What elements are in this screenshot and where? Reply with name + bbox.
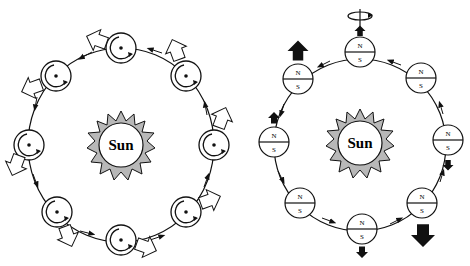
- svg-text:S: S: [419, 82, 423, 90]
- svg-text:N: N: [297, 193, 302, 201]
- right-diagram: Sun N S N S N S N S: [259, 9, 463, 258]
- planet-icon: [42, 197, 72, 227]
- svg-text:N: N: [295, 69, 300, 77]
- solid-arrow-down-icon: [356, 247, 368, 258]
- orbit-direction-arrow: [150, 49, 162, 53]
- rotation-axis-icon: [348, 9, 373, 28]
- hollow-arrow-icon: [133, 233, 160, 261]
- solid-arrow-up-icon: [288, 41, 309, 61]
- planet-icon: [41, 61, 71, 91]
- orbit-direction-arrow: [322, 218, 333, 222]
- planet-icon: [106, 225, 136, 255]
- planet-icon: [171, 197, 201, 227]
- magnet-body: N S: [283, 64, 313, 94]
- magnet-body: N S: [259, 127, 289, 157]
- magnet-body: N S: [345, 37, 375, 67]
- svg-text:S: S: [298, 207, 302, 215]
- magnet-body: N S: [347, 214, 377, 244]
- svg-text:S: S: [296, 83, 300, 91]
- planet-icon: [171, 61, 201, 91]
- svg-text:S: S: [420, 207, 424, 215]
- planet-icon: [199, 130, 229, 160]
- svg-text:N: N: [418, 68, 423, 76]
- solid-arrow-up-icon: [268, 112, 280, 123]
- left-diagram: Sun: [2, 26, 236, 261]
- svg-text:S: S: [360, 233, 364, 241]
- sun: Sun: [87, 111, 155, 180]
- svg-text:S: S: [446, 144, 450, 152]
- hollow-arrow-icon: [162, 36, 190, 63]
- sun: Sun: [326, 109, 394, 178]
- svg-text:S: S: [272, 146, 276, 154]
- planet-icon: [106, 33, 136, 63]
- magnet-body: N S: [407, 188, 437, 218]
- diagram-canvas: Sun Sun: [0, 0, 470, 266]
- svg-text:N: N: [357, 42, 362, 50]
- orbit-direction-arrow: [440, 104, 443, 114]
- orbit-direction-arrow: [278, 171, 283, 181]
- svg-text:N: N: [271, 132, 276, 140]
- sun-label: Sun: [347, 135, 373, 151]
- magnet-body: N S: [433, 125, 463, 155]
- svg-text:N: N: [445, 130, 450, 138]
- svg-text:N: N: [359, 219, 364, 227]
- sun-label: Sun: [108, 137, 134, 153]
- magnet-body: N S: [285, 188, 315, 218]
- svg-text:S: S: [358, 56, 362, 64]
- solid-arrow-down-icon: [411, 224, 435, 247]
- svg-text:N: N: [419, 193, 424, 201]
- solid-arrow-up-icon: [355, 26, 366, 36]
- orbit-direction-arrow: [81, 52, 92, 58]
- magnet-body: N S: [406, 63, 436, 93]
